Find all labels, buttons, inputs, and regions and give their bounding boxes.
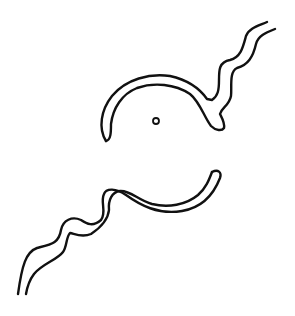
lower-arc-with-wavy-tail [18,171,221,294]
upper-arc-with-wavy-tail [101,22,275,141]
spirochete-drawing [0,0,295,316]
center-dot [153,118,159,124]
